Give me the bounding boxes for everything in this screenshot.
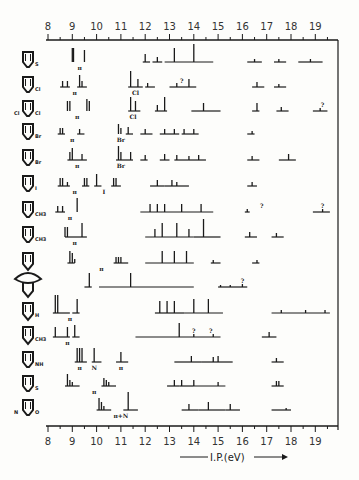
spectra-rows: ππCl?πCl?πBrπBrπIπ??ππ?ππ??πNπππ+N [53,44,330,419]
substituent-label: Br [35,133,42,139]
tick-label: 14 [187,21,200,32]
spectrum-row: πBr [67,146,295,169]
arrow-right-icon [282,454,288,460]
substituent-label: Cl [35,110,41,116]
tick-label: 19 [309,436,322,447]
tick-label: 10 [90,436,103,447]
spectrum-row: π?? [53,323,277,346]
molecule-icon: I [23,176,37,191]
annotation: Br [117,162,126,169]
annotation: ? [192,327,196,334]
molecule-icon: CH3 [23,327,47,344]
annotation: π [73,239,78,246]
annotation: π+N [113,412,128,419]
annotation: Cl [130,113,138,120]
molecule-icons: SClClClBrBrICH3CH3HCH3NHSON [14,52,47,415]
substituent-label: NH [35,361,43,367]
annotation: ? [209,327,213,334]
tick-label: 11 [115,21,128,32]
annotation: π [119,364,124,371]
bottom-x-axis: 8910111213141516171819 [45,426,338,447]
tick-label: 18 [285,436,298,447]
molecule-icon: Br [23,150,42,165]
substituent-label: S [35,385,39,391]
tick-label: 8 [45,436,51,447]
tick-label: 9 [69,21,75,32]
pes-stick-chart: 8910111213141516171819 89101112131415161… [0,0,359,480]
annotation: π [68,315,73,322]
annotation: ? [321,101,325,108]
annotation: π [70,136,75,143]
spectrum-row: πCl? [67,97,327,120]
tick-label: 17 [260,21,273,32]
annotation: π [75,162,80,169]
molecule-icon: H [23,303,39,320]
tick-label: 16 [236,436,249,447]
top-x-axis: 8910111213141516171819 [45,21,338,40]
substituent-label: Cl [14,110,20,116]
spectrum-row: πI [58,174,257,195]
molecule-icon: Cl [23,77,41,92]
tick-label: 10 [90,21,103,32]
spectrum-row: π [65,219,284,246]
annotation: π [99,265,104,272]
substituent-label: CH3 [35,211,47,217]
x-axis-label: I.P.(eV) [180,452,288,463]
substituent-label: Br [35,159,42,165]
tick-label: 9 [69,436,75,447]
annotation: Br [117,136,126,143]
tick-label: 16 [236,21,249,32]
molecule-icon: NH [23,352,43,367]
substituent-label: H [35,312,39,318]
molecule-icon: Br [23,124,42,139]
annotation: ? [260,202,264,209]
molecule-icon: CH3 [23,227,47,242]
tick-label: 19 [309,21,322,32]
substituent-label: I [35,185,37,191]
tick-label: 12 [139,21,152,32]
annotation: N [91,364,97,371]
molecule-icon [15,273,41,297]
annotation: I [102,188,105,195]
tick-label: 17 [260,436,273,447]
substituent-label: Cl [35,86,41,92]
spectrum-row: π [67,251,259,272]
molecule-icon: ClCl [14,101,41,116]
substituent-label: CH3 [35,236,47,242]
annotation: Cl [132,89,140,96]
tick-label: 12 [139,436,152,447]
tick-label: 8 [45,21,51,32]
tick-label: 13 [163,436,176,447]
annotation: π [77,364,82,371]
spectrum-row: π [72,44,322,71]
tick-label: 13 [163,21,176,32]
molecule-icon: CH3 [23,202,47,217]
spectrum-row: πBr [58,124,255,143]
molecule-icon: S [23,52,39,67]
spectrum-row: π [53,295,330,322]
annotation: π [73,188,78,195]
annotation: π [68,214,73,221]
tick-label: 14 [187,436,200,447]
tick-label: 18 [285,21,298,32]
annotation: π [77,64,82,71]
substituent-label: CH3 [35,336,47,342]
annotation: π [73,89,78,96]
annotation: ? [241,277,245,284]
spectrum-row: π?? [55,198,330,221]
annotation: π [92,388,97,395]
annotation: π [65,339,70,346]
substituent-label: N [14,409,18,415]
tick-label: 15 [212,436,225,447]
spectrum-row: π [65,374,284,395]
spectrum-row: πNπ [75,348,284,371]
tick-label: 15 [212,21,225,32]
annotation: π [75,113,80,120]
spectrum-row: πCl? [60,71,286,96]
annotation: ? [321,202,325,209]
substituent-label: O [35,409,39,415]
molecule-icon [23,253,33,270]
annotation: ? [180,77,184,84]
molecule-icon: ON [14,400,39,415]
spectrum-row: ? [84,273,247,287]
